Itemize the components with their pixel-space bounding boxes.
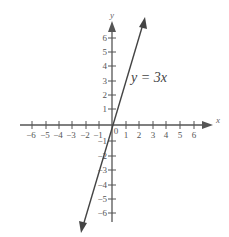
y-axis-label: y [109,10,114,20]
svg-text:−4: −4 [97,180,107,190]
svg-text:5: 5 [103,47,108,57]
svg-text:−5: −5 [97,194,107,204]
svg-text:1: 1 [103,104,108,114]
coordinate-plane: x y −6 −5 −4 −3 −2 −1 1 2 3 4 5 6 0 1 2 [0,0,229,237]
svg-text:6: 6 [103,33,108,43]
svg-text:3: 3 [151,130,156,140]
svg-text:4: 4 [164,130,169,140]
svg-text:2: 2 [103,90,108,100]
svg-text:−4: −4 [53,130,63,140]
svg-text:−1: −1 [97,136,107,146]
svg-text:6: 6 [192,130,197,140]
origin-label: 0 [114,126,119,136]
svg-text:−3: −3 [66,130,76,140]
y-axis-arrow-icon [108,21,116,32]
line-arrow-up-icon [139,17,147,29]
x-axis-arrow-icon [202,121,213,129]
line-arrow-down-icon [79,221,87,233]
x-axis-label: x [215,115,220,125]
svg-text:−2: −2 [80,130,90,140]
equation-label: y = 3x [129,70,168,85]
svg-text:2: 2 [137,130,142,140]
svg-text:3: 3 [103,76,108,86]
svg-text:−6: −6 [26,130,36,140]
svg-text:5: 5 [178,130,183,140]
svg-text:1: 1 [124,130,129,140]
svg-text:−5: −5 [40,130,50,140]
svg-text:4: 4 [103,61,108,71]
svg-text:−6: −6 [97,208,107,218]
